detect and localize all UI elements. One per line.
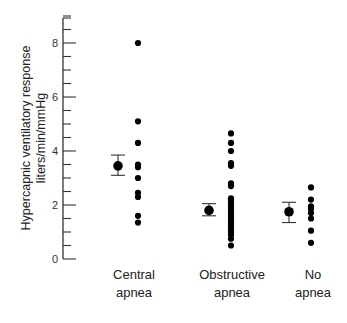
data-point <box>135 140 141 146</box>
x-category-label-line1: No <box>263 266 347 284</box>
mean-point <box>204 206 214 216</box>
data-point <box>308 215 314 221</box>
data-point <box>228 183 234 189</box>
data-point <box>308 228 314 234</box>
series-no-apnea <box>282 184 314 246</box>
y-axis-title: Hypercapnic ventilatory response liters/… <box>6 0 62 270</box>
data-point <box>135 40 141 46</box>
data-point <box>135 164 141 170</box>
data-point <box>228 140 234 146</box>
data-point <box>135 219 141 225</box>
data-point <box>228 242 234 248</box>
data-point <box>228 236 234 242</box>
mean-point <box>113 161 123 171</box>
x-category-label-line1: Central <box>84 266 184 284</box>
data-point <box>308 210 314 216</box>
data-point <box>135 175 141 181</box>
x-category-label-line2: apnea <box>263 284 347 302</box>
data-point <box>228 163 234 169</box>
x-category-label-line2: apnea <box>84 284 184 302</box>
mean-point <box>284 207 294 217</box>
data-point <box>308 240 314 246</box>
y-axis-title-line2: liters/min/mmHg <box>34 46 49 231</box>
x-category-no-apnea: No apnea <box>263 266 347 302</box>
series-obstructive-apnea <box>202 130 234 248</box>
data-point <box>228 148 234 154</box>
y-axis-title-line1: Hypercapnic ventilatory response <box>19 46 34 231</box>
series-central-apnea <box>111 40 141 226</box>
data-point <box>308 197 314 203</box>
data-point <box>135 118 141 124</box>
data-point <box>308 184 314 190</box>
x-category-central-apnea: Central apnea <box>84 266 184 302</box>
data-point <box>135 194 141 200</box>
data-point <box>228 130 234 136</box>
data-point <box>135 213 141 219</box>
